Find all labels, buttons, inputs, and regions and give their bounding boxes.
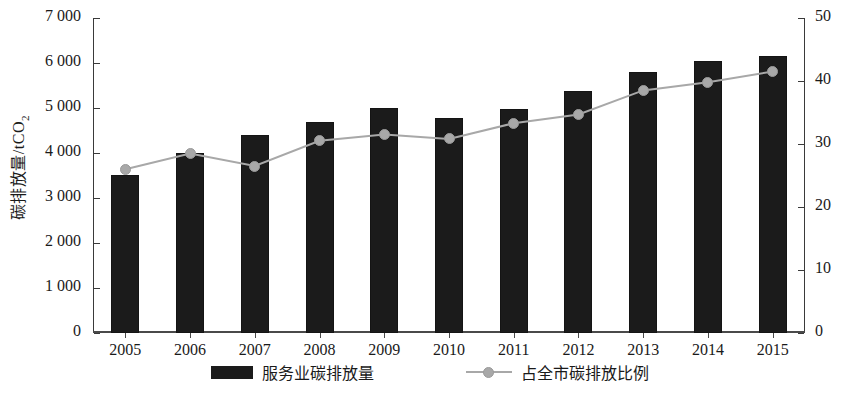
left-tick-label: 0 <box>0 322 81 340</box>
left-tick-mark <box>94 333 100 334</box>
left-tick-label: 3 000 <box>0 187 81 205</box>
line-series-path <box>93 18 805 333</box>
x-tick-mark <box>255 333 256 338</box>
left-tick-label: 2 000 <box>0 232 81 250</box>
right-tick-mark <box>798 333 804 334</box>
legend-item-line: 占全市碳排放比例 <box>466 360 649 384</box>
left-tick-label: 5 000 <box>0 97 81 115</box>
line-swatch-dot <box>483 367 494 378</box>
bar-swatch-icon <box>211 366 253 379</box>
x-tick-label: 2015 <box>733 341 813 359</box>
line-marker <box>185 148 196 159</box>
left-tick-label: 6 000 <box>0 52 81 70</box>
line-dot-swatch-icon <box>466 366 512 378</box>
right-tick-label: 30 <box>815 133 855 151</box>
right-tick-label: 10 <box>815 259 855 277</box>
x-tick-mark <box>190 333 191 338</box>
x-tick-mark <box>773 333 774 338</box>
x-tick-mark <box>643 333 644 338</box>
left-axis-title-subscript: 2 <box>19 115 31 121</box>
x-tick-mark <box>125 333 126 338</box>
chart-legend: 服务业碳排放量 占全市碳排放比例 <box>0 360 860 384</box>
left-tick-label: 7 000 <box>0 7 81 25</box>
left-tick-label: 4 000 <box>0 142 81 160</box>
legend-item-bar: 服务业碳排放量 <box>211 360 374 384</box>
x-tick-mark <box>514 333 515 338</box>
right-tick-label: 40 <box>815 70 855 88</box>
x-tick-mark <box>384 333 385 338</box>
right-tick-label: 20 <box>815 196 855 214</box>
line-marker <box>379 129 390 140</box>
line-marker <box>638 85 649 96</box>
chart-figure: 碳排放量/tCO2 比例/% 7 0006 0005 0004 0003 000… <box>0 0 860 394</box>
plot-area <box>93 18 805 333</box>
right-tick-label: 50 <box>815 7 855 25</box>
x-tick-mark <box>320 333 321 338</box>
x-tick-mark <box>449 333 450 338</box>
left-axis-title-text: 碳排放量/tCO <box>10 121 27 220</box>
left-tick-label: 1 000 <box>0 277 81 295</box>
x-tick-mark <box>578 333 579 338</box>
line-marker <box>120 164 131 175</box>
right-tick-label: 0 <box>815 322 855 340</box>
legend-label-line: 占全市碳排放比例 <box>521 360 649 384</box>
line-marker <box>508 118 519 129</box>
legend-label-bar: 服务业碳排放量 <box>262 360 374 384</box>
line-marker <box>573 109 584 120</box>
line-marker <box>249 161 260 172</box>
line-marker <box>444 133 455 144</box>
x-tick-mark <box>708 333 709 338</box>
